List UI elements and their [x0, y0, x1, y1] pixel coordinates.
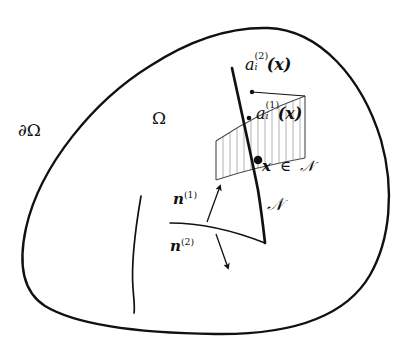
normal-n1-superscript: (1)	[184, 189, 197, 200]
element-of-symbol: ∈	[280, 157, 291, 175]
tangent-a2-superscript: (2)	[255, 51, 269, 61]
normal-n2-label: n(2)	[170, 237, 194, 254]
tangent-a1-subscript: i	[266, 111, 269, 121]
tangent-a2-argument: (x)	[267, 55, 292, 74]
normal-n1-label: n(1)	[173, 190, 197, 207]
normal-n2-arrow	[216, 234, 227, 265]
domain-label: Ω	[152, 110, 166, 127]
tangent-a2-line	[252, 92, 305, 96]
tangent-a2-label: a (2) i (x)	[245, 57, 291, 73]
interface-set-symbol: 𝒩	[300, 157, 314, 175]
normal-n1-base: n	[173, 190, 184, 208]
tangent-plane-hatching	[223, 80, 300, 195]
tangent-a1-superscript: (1)	[266, 100, 280, 110]
tangent-a2-dot	[250, 90, 254, 94]
tangent-a1-base: a	[256, 106, 266, 122]
inner-crack-curve	[133, 196, 141, 313]
interface-label: 𝒩	[267, 196, 283, 213]
normal-n2-superscript: (2)	[181, 236, 194, 247]
domain-boundary-curve	[22, 28, 389, 334]
point-x-marker	[254, 156, 263, 165]
omega-symbol: Ω	[27, 120, 41, 140]
tangent-a2-base: a	[245, 57, 255, 73]
normal-n1-arrow	[207, 189, 219, 222]
boundary-label: ∂Ω	[18, 122, 41, 139]
tangent-a1-argument: (x)	[278, 104, 303, 123]
diagram-svg	[0, 0, 404, 356]
partial-symbol: ∂	[18, 120, 27, 140]
point-membership-label: x ∈ 𝒩	[262, 159, 314, 174]
point-x-symbol: x	[262, 157, 271, 175]
tangent-a1-label: a (1) i (x)	[256, 106, 302, 122]
normal-n2-base: n	[170, 237, 181, 255]
tangent-a2-subscript: i	[255, 62, 258, 72]
figure-canvas: ∂Ω Ω a (2) i (x) a (1) i (x) x ∈ 𝒩 𝒩 n(1…	[0, 0, 404, 356]
tangent-a1-dot	[247, 116, 252, 121]
